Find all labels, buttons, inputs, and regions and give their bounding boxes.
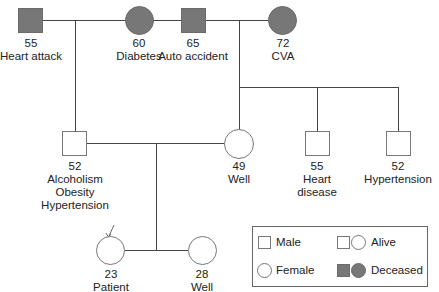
note: Well	[191, 281, 213, 292]
legend-deceased-square-icon	[337, 264, 350, 277]
sister-label: 28 Well	[191, 268, 213, 292]
note: Diabetes	[116, 50, 161, 63]
legend-deceased-label: Deceased	[371, 264, 423, 276]
age: 55	[297, 160, 337, 173]
age: 65	[158, 37, 228, 50]
note: Heart attack	[0, 50, 62, 63]
age: 49	[228, 160, 250, 173]
uncle-1-symbol	[305, 131, 330, 156]
note: Well	[228, 173, 250, 186]
note: Auto accident	[158, 50, 228, 63]
paternal-grandmother-symbol	[125, 6, 154, 35]
paternal-grandfather-symbol	[18, 8, 43, 33]
uncle-2-label: 52 Hypertension	[364, 160, 432, 186]
note: Heart	[297, 173, 337, 186]
legend-female-label: Female	[276, 264, 314, 276]
father-label: 52 Alcoholism Obesity Hypertension	[41, 160, 109, 212]
sibship-line-children	[125, 250, 188, 251]
sibship-line-maternal	[239, 87, 399, 88]
drop-line-uncle-1	[317, 87, 318, 131]
legend-deceased-circle-icon	[351, 263, 366, 278]
legend-male-square-icon	[258, 236, 271, 249]
maternal-grandfather-symbol	[181, 8, 206, 33]
drop-line-uncle-2	[398, 87, 399, 131]
legend-alive-square-icon	[337, 236, 350, 249]
maternal-grandmother-label: 72 CVA	[272, 37, 295, 63]
note: Hypertension	[364, 173, 432, 186]
marriage-line-maternal-grandparents	[206, 20, 268, 21]
age: 60	[116, 37, 161, 50]
note: Hypertension	[41, 199, 109, 212]
age: 72	[272, 37, 295, 50]
age: 55	[0, 37, 62, 50]
descent-line-paternal	[75, 20, 76, 143]
uncle-1-label: 55 Heart disease	[297, 160, 337, 199]
legend-alive-circle-icon	[351, 235, 366, 250]
paternal-grandfather-label: 55 Heart attack	[0, 37, 62, 63]
maternal-grandmother-symbol	[268, 6, 297, 35]
age: 23	[93, 268, 129, 281]
patient-label: 23 Patient	[93, 268, 129, 292]
mother-label: 49 Well	[228, 160, 250, 186]
descent-line-maternal	[239, 20, 240, 129]
age: 52	[41, 160, 109, 173]
sister-symbol	[188, 236, 217, 265]
note: Alcoholism	[41, 173, 109, 186]
marriage-line-paternal-grandparents	[43, 20, 125, 21]
maternal-grandfather-label: 65 Auto accident	[158, 37, 228, 63]
descent-line-children	[156, 143, 157, 250]
note: Patient	[93, 281, 129, 292]
age: 52	[364, 160, 432, 173]
uncle-2-symbol	[386, 131, 411, 156]
father-symbol	[62, 131, 87, 156]
note: disease	[297, 186, 337, 199]
patient-symbol	[96, 236, 125, 265]
legend: Male Female Alive Deceased	[252, 226, 428, 287]
legend-alive-label: Alive	[371, 236, 396, 248]
age: 28	[191, 268, 213, 281]
mother-symbol	[224, 129, 254, 159]
paternal-grandmother-label: 60 Diabetes	[116, 37, 161, 63]
legend-female-circle-icon	[257, 263, 272, 278]
note: Obesity	[41, 186, 109, 199]
legend-male-label: Male	[276, 236, 301, 248]
note: CVA	[272, 50, 295, 63]
